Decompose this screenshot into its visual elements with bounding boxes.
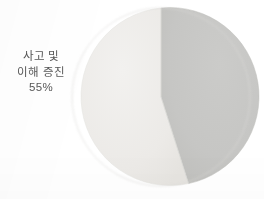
pie-label-percent: 55% xyxy=(2,80,80,96)
pie-label-line-2: 이해 증진 xyxy=(2,65,80,81)
pie-chart-figure: 사고 및 이해 증진 55% xyxy=(0,0,264,199)
pie-label-line-1: 사고 및 xyxy=(2,49,80,65)
pie-chart-graphic xyxy=(0,0,264,199)
pie-slice-label: 사고 및 이해 증진 55% xyxy=(2,49,80,96)
